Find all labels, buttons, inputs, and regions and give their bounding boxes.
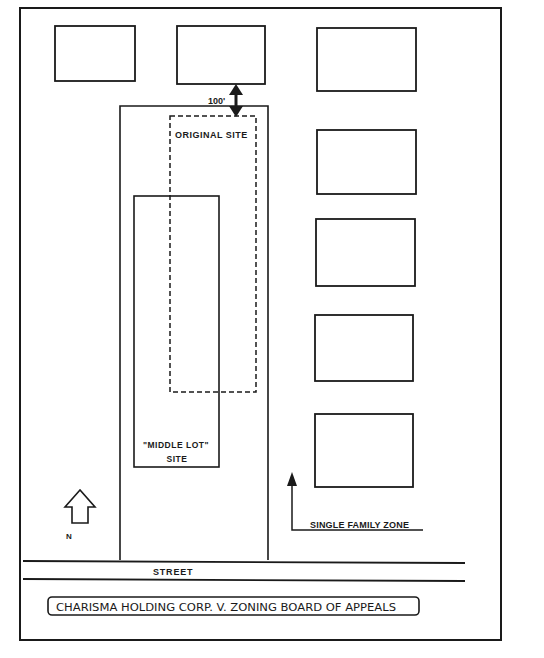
middle-lot-label: "MIDDLE LOT" <box>143 440 209 450</box>
diagram-frame <box>20 8 501 640</box>
caption-title: CHARISMA HOLDING CORP. V. ZONING BOARD O… <box>56 601 396 614</box>
original-site-label: ORIGINAL SITE <box>175 130 248 140</box>
original-site-boundary <box>170 116 256 392</box>
single-family-zone-label: SINGLE FAMILY ZONE <box>310 520 409 530</box>
street-edge-bottom <box>23 579 465 581</box>
house-top-middle <box>177 26 265 84</box>
house-right-4 <box>315 315 413 381</box>
street-label: STREET <box>153 567 193 577</box>
distance-label: 100' <box>208 96 225 106</box>
parcel-boundary <box>120 106 268 560</box>
house-top-right <box>317 28 416 91</box>
house-right-3 <box>316 219 415 286</box>
middle-lot-site-label: SITE <box>167 454 188 464</box>
site-plan-diagram: 100' ORIGINAL SITE "MIDDLE LOT" SITE SIN… <box>0 0 544 658</box>
distance-arrow-icon <box>229 84 243 117</box>
house-right-2 <box>317 130 416 194</box>
house-right-5 <box>315 414 413 487</box>
middle-lot-site-boundary <box>134 196 219 467</box>
street-edge-top <box>23 561 465 563</box>
north-label: N <box>66 532 72 541</box>
north-arrow-icon <box>65 490 95 523</box>
house-top-left <box>55 26 135 81</box>
